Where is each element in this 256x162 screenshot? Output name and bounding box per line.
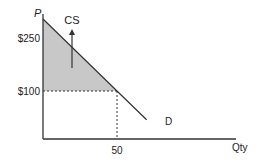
consumer-surplus-chart: P Qty $250 $100 50 CS D [0,0,256,162]
x-axis-label: Qty [232,142,248,153]
y-axis-label: P [34,7,42,19]
y-tick-label: $250 [18,33,41,44]
demand-curve-label: D [165,116,172,127]
consumer-surplus-label: CS [64,14,79,26]
y-tick-label: $100 [18,86,41,97]
arrow-head-icon [69,29,75,35]
x-tick-label: 50 [111,145,123,156]
